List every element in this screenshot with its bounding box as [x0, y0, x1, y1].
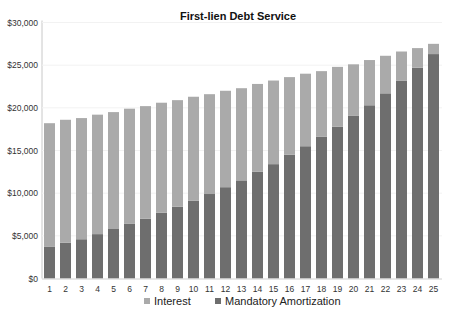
x-tick-label: 25: [429, 284, 439, 294]
y-tick-label: $20,000: [7, 103, 38, 113]
bar-interest: [172, 100, 183, 207]
legend-label-interest: Interest: [154, 295, 191, 307]
bar-group: [140, 106, 151, 278]
bar-group: [380, 56, 391, 279]
bar-group: [204, 94, 215, 278]
x-tick-label: 11: [205, 284, 214, 294]
bar-interest: [428, 44, 439, 54]
bar-mandatory-amortization: [332, 127, 343, 279]
x-tick-label: 18: [317, 284, 327, 294]
stacked-bar-chart: First-lien Debt Service $0$5,000$10,000$…: [0, 0, 449, 314]
x-tick-label: 8: [159, 284, 164, 294]
bar-mandatory-amortization: [396, 81, 407, 279]
y-tick-label: $15,000: [7, 146, 38, 156]
x-tick-label: 17: [301, 284, 311, 294]
bar-interest: [252, 84, 263, 172]
x-tick-label: 5: [111, 284, 116, 294]
bar-interest: [316, 71, 327, 137]
bar-interest: [300, 74, 311, 147]
bar-interest: [396, 52, 407, 81]
bar-group: [236, 88, 247, 278]
bar-group: [76, 118, 87, 278]
bar-group: [252, 84, 263, 279]
x-tick-label: 13: [237, 284, 247, 294]
bar-interest: [364, 60, 375, 105]
legend-swatch-interest: [144, 298, 150, 304]
legend-label-mandatory-amortization: Mandatory Amortization: [225, 295, 341, 307]
bar-group: [316, 71, 327, 278]
bar-interest: [220, 91, 231, 187]
x-tick-label: 24: [413, 284, 423, 294]
bar-group: [108, 112, 119, 278]
bar-group: [124, 109, 135, 279]
bar-mandatory-amortization: [60, 243, 71, 279]
bar-mandatory-amortization: [220, 187, 231, 278]
bar-mandatory-amortization: [188, 201, 199, 279]
bar-interest: [412, 48, 423, 68]
bar-group: [364, 60, 375, 278]
x-tick-label: 1: [47, 284, 52, 294]
x-tick-label: 16: [285, 284, 295, 294]
bar-interest: [236, 88, 247, 180]
y-tick-label: $10,000: [7, 188, 38, 198]
x-tick-label: 12: [221, 284, 231, 294]
bar-interest: [92, 115, 103, 234]
bar-mandatory-amortization: [92, 234, 103, 278]
bar-mandatory-amortization: [428, 54, 439, 278]
x-tick-label: 3: [79, 284, 84, 294]
chart-title: First-lien Debt Service: [180, 10, 296, 22]
bar-mandatory-amortization: [44, 247, 55, 279]
x-tick-label: 20: [349, 284, 359, 294]
x-tick-label: 14: [253, 284, 263, 294]
bar-mandatory-amortization: [76, 239, 87, 278]
bar-mandatory-amortization: [108, 229, 119, 278]
bar-mandatory-amortization: [124, 224, 135, 279]
bar-mandatory-amortization: [172, 207, 183, 279]
bar-group: [92, 115, 103, 279]
bar-mandatory-amortization: [140, 219, 151, 279]
bar-interest: [268, 81, 279, 165]
x-tick-label: 19: [333, 284, 343, 294]
bar-mandatory-amortization: [252, 172, 263, 279]
bar-group: [284, 77, 295, 278]
x-tick-label: 10: [189, 284, 199, 294]
bar-interest: [348, 64, 359, 115]
bar-mandatory-amortization: [204, 194, 215, 278]
y-axis: $0$5,000$10,000$15,000$20,000$25,000$30,…: [7, 18, 42, 284]
x-tick-label: 23: [397, 284, 407, 294]
legend: Interest Mandatory Amortization: [144, 295, 341, 307]
legend-swatch-mandatory-amortization: [215, 298, 221, 304]
bar-group: [172, 100, 183, 278]
x-tick-label: 2: [63, 284, 68, 294]
x-tick-label: 4: [95, 284, 100, 294]
bar-interest: [60, 120, 71, 243]
bar-mandatory-amortization: [268, 164, 279, 278]
bar-interest: [332, 67, 343, 127]
bar-mandatory-amortization: [412, 68, 423, 279]
y-tick-label: $5,000: [12, 231, 38, 241]
bars: [44, 44, 439, 279]
bar-mandatory-amortization: [348, 116, 359, 279]
bar-mandatory-amortization: [284, 155, 295, 279]
y-tick-label: $30,000: [7, 18, 38, 28]
bar-group: [188, 97, 199, 279]
x-axis: 1234567891011121314151617181920212223242…: [42, 279, 442, 294]
bar-group: [332, 67, 343, 279]
y-tick-label: $25,000: [7, 60, 38, 70]
bar-mandatory-amortization: [236, 180, 247, 278]
bar-group: [300, 74, 311, 279]
bar-interest: [124, 109, 135, 224]
bar-interest: [188, 97, 199, 201]
y-tick-label: $0: [29, 274, 39, 284]
x-tick-label: 15: [269, 284, 279, 294]
bar-group: [44, 123, 55, 278]
bar-group: [396, 52, 407, 279]
bar-mandatory-amortization: [316, 137, 327, 279]
bar-interest: [380, 56, 391, 94]
x-tick-label: 21: [365, 284, 375, 294]
bar-interest: [284, 77, 295, 155]
x-tick-label: 9: [175, 284, 180, 294]
bar-group: [156, 103, 167, 279]
x-tick-label: 22: [381, 284, 391, 294]
bar-interest: [76, 118, 87, 239]
